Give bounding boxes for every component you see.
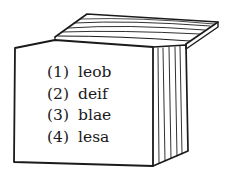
- option-item: (3) blae: [47, 105, 111, 127]
- option-number: (3): [47, 105, 78, 127]
- option-text: lesa: [78, 127, 109, 149]
- side-face: [153, 45, 188, 166]
- option-text: deif: [78, 84, 108, 106]
- option-text: leob: [78, 62, 111, 84]
- option-item: (1) leob: [47, 62, 111, 84]
- options-list: (1) leob (2) deif (3) blae (4) lesa: [47, 62, 111, 148]
- lid-slab: [55, 14, 218, 49]
- option-number: (2): [47, 84, 78, 106]
- option-item: (4) lesa: [47, 127, 111, 149]
- option-number: (4): [47, 127, 78, 149]
- option-text: blae: [78, 105, 111, 127]
- box-drawing: [0, 0, 232, 174]
- option-item: (2) deif: [47, 84, 111, 106]
- option-number: (1): [47, 62, 78, 84]
